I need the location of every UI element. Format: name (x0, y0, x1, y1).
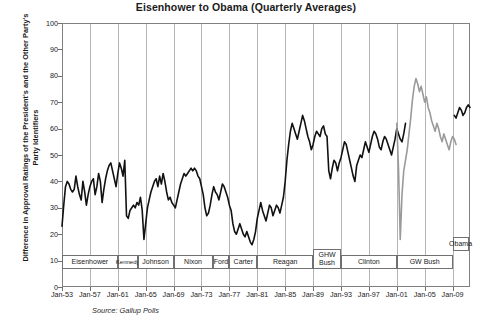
president-label-eisenhower: Eisenhower (62, 255, 118, 269)
x-tick-mark (201, 287, 202, 291)
x-tick-mark (369, 287, 370, 291)
x-tick-mark (397, 287, 398, 291)
x-tick-mark (118, 287, 119, 291)
data-series-line-1 (397, 78, 456, 239)
x-tick-mark (257, 287, 258, 291)
president-label-gw-bush: GW Bush (397, 255, 453, 269)
president-label-clinton: Clinton (341, 255, 397, 269)
x-tick-mark (425, 287, 426, 291)
x-tick-mark (62, 287, 63, 291)
president-label-kennedy: Kennedy (118, 255, 138, 269)
x-tick-mark (453, 287, 454, 291)
chart-container: Eisenhower to Obama (Quarterly Averages)… (0, 0, 492, 333)
source-note: Source: Gallup Polls (92, 306, 159, 315)
x-tick-mark (285, 287, 286, 291)
president-label-johnson: Johnson (138, 255, 174, 269)
president-label-ford: Ford (213, 255, 230, 269)
x-tick-mark (174, 287, 175, 291)
x-tick-mark (146, 287, 147, 291)
president-label-carter: Carter (229, 255, 257, 269)
president-label-reagan: Reagan (257, 255, 313, 269)
x-tick-label: Jan-09 (431, 290, 475, 299)
president-label-nixon: Nixon (174, 255, 213, 269)
president-label-ghw-bush: GHWBush (313, 249, 341, 269)
x-tick-mark (341, 287, 342, 291)
data-series-line-0 (62, 115, 405, 244)
x-tick-mark (90, 287, 91, 291)
x-tick-mark (229, 287, 230, 291)
x-tick-mark (313, 287, 314, 291)
president-label-obama: Obama (453, 237, 469, 251)
data-series-layer (0, 0, 492, 333)
data-series-line-2 (454, 105, 470, 118)
